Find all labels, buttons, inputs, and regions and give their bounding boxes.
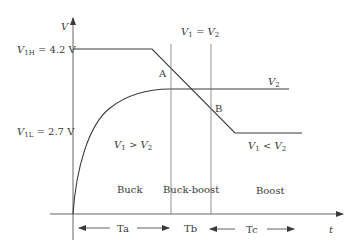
interval-ta-label: Ta xyxy=(117,223,129,234)
interval-tb-label: Tb xyxy=(184,223,197,234)
equal-condition-label: V1 = V2 xyxy=(181,26,219,39)
interval-tc-label: Tc xyxy=(246,224,258,235)
interval-tc: Tc xyxy=(210,224,294,235)
point-a-label: A xyxy=(158,68,167,79)
mode-buckboost-label: Buck-boost xyxy=(163,184,219,195)
interval-ta: Ta xyxy=(79,223,169,234)
point-b-label: B xyxy=(215,103,222,114)
v2-label: V2 xyxy=(268,76,280,89)
y-axis-label: V xyxy=(61,21,70,32)
interval-tb: Tb xyxy=(184,223,197,234)
buck-boost-mode-diagram: V t V1H = 4.2 V V1L = 2.7 V V2 A B V1 = … xyxy=(0,0,359,250)
less-condition-label: V1 < V2 xyxy=(248,140,286,153)
mode-boost-label: Boost xyxy=(256,185,285,196)
mode-buck-label: Buck xyxy=(117,184,143,195)
x-axis-label: t xyxy=(329,224,334,235)
v1l-label: V1L = 2.7 V xyxy=(17,126,75,139)
greater-condition-label: V1 > V2 xyxy=(114,139,152,152)
v1h-label: V1H = 4.2 V xyxy=(17,44,77,57)
v1-curve xyxy=(73,49,302,133)
